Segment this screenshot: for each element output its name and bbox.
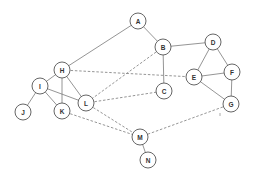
edge-k-m [62, 111, 140, 137]
node-m: M [132, 129, 148, 145]
node-b: B [155, 39, 171, 55]
edge-h-e [62, 70, 194, 77]
nodes-layer: ABCDEFGHIJKLMN [15, 13, 240, 168]
node-c: C [156, 83, 172, 99]
node-n: N [140, 152, 156, 168]
node-k: K [54, 103, 70, 119]
edge-g-m [140, 104, 231, 137]
node-label: D [211, 39, 216, 46]
node-label: H [60, 67, 65, 74]
node-label: G [228, 101, 233, 108]
node-label: B [161, 44, 166, 51]
edge-l-m [86, 103, 140, 137]
node-label: E [192, 74, 197, 81]
edge-b-l [86, 47, 163, 103]
node-h: H [54, 62, 70, 78]
node-label: N [146, 157, 151, 164]
edges-layer [23, 21, 232, 160]
node-j: J [15, 104, 31, 120]
edge-l-c [86, 91, 164, 103]
node-label: J [21, 109, 25, 116]
node-label: M [137, 134, 142, 141]
node-i: I [32, 78, 48, 94]
node-label: F [230, 69, 234, 76]
node-label: I [39, 83, 41, 90]
node-d: D [205, 34, 221, 50]
node-label: C [162, 88, 167, 95]
node-g: G [223, 96, 239, 112]
node-label: K [60, 108, 65, 115]
edge-a-h [62, 21, 138, 70]
node-f: F [224, 64, 240, 80]
node-l: L [78, 95, 94, 111]
node-label: L [84, 100, 88, 107]
node-a: A [130, 13, 146, 29]
node-label: A [136, 18, 141, 25]
graph-diagram: ABCDEFGHIJKLMN [0, 0, 254, 181]
node-e: E [186, 69, 202, 85]
